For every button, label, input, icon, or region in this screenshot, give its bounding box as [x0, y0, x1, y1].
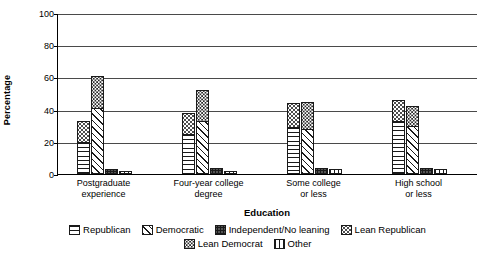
legend-label: Lean Democrat: [198, 238, 263, 249]
bar: [105, 14, 118, 174]
bar: [224, 14, 237, 174]
bar-segment: [224, 171, 237, 174]
swatch-medium-dots-icon: [184, 239, 195, 249]
legend-label: Democratic: [156, 224, 204, 235]
y-tick-label: 40: [44, 106, 54, 116]
y-tick-label: 100: [39, 9, 54, 19]
bar: [329, 14, 342, 174]
legend-label: Other: [288, 238, 312, 249]
bar-segment: [105, 169, 118, 174]
y-tick-label: 80: [44, 41, 54, 51]
bar-segment: [392, 121, 405, 174]
legend-item[interactable]: Republican: [69, 224, 131, 235]
y-tick-label: 60: [44, 73, 54, 83]
bar-segment: [301, 129, 314, 174]
bar-group: [392, 14, 447, 174]
legend-row-1: RepublicanDemocraticIndependent/No leani…: [0, 224, 495, 235]
legend-item[interactable]: Lean Democrat: [184, 238, 263, 249]
bar-segment: [91, 76, 104, 108]
bar: [210, 14, 223, 174]
bar: [392, 14, 405, 174]
bar-segment: [77, 142, 90, 174]
legend-item[interactable]: Independent/No leaning: [215, 224, 330, 235]
bar-segment: [119, 171, 132, 174]
swatch-light-dots-icon: [341, 225, 352, 235]
bar-segment: [196, 121, 209, 174]
bar: [77, 14, 90, 174]
bar-segment: [315, 168, 328, 174]
chart-legend: RepublicanDemocraticIndependent/No leani…: [0, 224, 495, 252]
bar: [91, 14, 104, 174]
legend-label: Independent/No leaning: [229, 224, 330, 235]
bar-segment: [392, 100, 405, 121]
y-tick-mark: [54, 14, 58, 15]
y-tick-mark: [54, 46, 58, 47]
bar: [119, 14, 132, 174]
bar-chart: Percentage 020406080100 Postgraduate exp…: [0, 0, 495, 273]
bar-segment: [406, 106, 419, 125]
plot-area: 020406080100: [57, 14, 477, 175]
bar-segment: [182, 134, 195, 174]
bar-segment: [196, 90, 209, 121]
x-axis-tick-labels: Postgraduate experienceFour-year college…: [57, 178, 477, 208]
bar-segment: [287, 127, 300, 174]
x-tick-label: High school or less: [356, 178, 481, 200]
swatch-diagonal-hatch-icon: [142, 225, 153, 235]
bar-group: [182, 14, 237, 174]
bar-segment: [406, 126, 419, 174]
legend-item[interactable]: Lean Republican: [341, 224, 426, 235]
y-tick-mark: [54, 111, 58, 112]
legend-label: Republican: [83, 224, 131, 235]
bar: [287, 14, 300, 174]
bar-segment: [77, 121, 90, 142]
legend-label: Lean Republican: [355, 224, 426, 235]
bar-group: [77, 14, 132, 174]
y-tick-mark: [54, 78, 58, 79]
bar: [196, 14, 209, 174]
y-tick-mark: [54, 175, 58, 176]
y-axis-title: Percentage: [2, 0, 12, 60]
bar-segment: [301, 102, 314, 129]
bar-segment: [210, 168, 223, 174]
bar: [301, 14, 314, 174]
swatch-horizontal-lines-icon: [69, 225, 80, 235]
y-tick-label: 20: [44, 138, 54, 148]
legend-row-2: Lean DemocratOther: [0, 238, 495, 249]
bar: [315, 14, 328, 174]
bar: [182, 14, 195, 174]
bar-segment: [329, 169, 342, 174]
bar-segment: [434, 169, 447, 174]
bar: [434, 14, 447, 174]
bar: [406, 14, 419, 174]
legend-item[interactable]: Democratic: [142, 224, 204, 235]
legend-item[interactable]: Other: [274, 238, 312, 249]
bar: [420, 14, 433, 174]
bar-group: [287, 14, 342, 174]
swatch-dense-dots-icon: [215, 225, 226, 235]
bar-segment: [420, 168, 433, 174]
y-tick-mark: [54, 143, 58, 144]
bar-segment: [91, 108, 104, 174]
bar-segment: [182, 113, 195, 134]
x-axis-title: Education: [57, 207, 477, 218]
bar-segment: [287, 103, 300, 127]
swatch-vertical-lines-icon: [274, 239, 285, 249]
